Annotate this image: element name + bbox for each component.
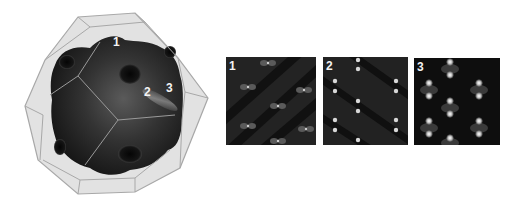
region-label-1: 1: [113, 36, 120, 48]
truncated-octahedron-isosurface: 1 2 3: [0, 0, 220, 202]
region-label-2: 2: [144, 86, 151, 98]
region-label-3: 3: [166, 82, 173, 94]
panel-3-pattern: [414, 58, 500, 145]
polyhedron-graphic: [0, 0, 220, 202]
figure: 1 2 3 1: [0, 0, 525, 202]
panel-label-2: 2: [326, 60, 333, 72]
panel-1-pattern: [226, 57, 316, 145]
panel-3: 3: [414, 58, 500, 145]
panel-1: 1: [226, 57, 316, 145]
panel-2: 2: [323, 57, 408, 145]
panel-label-3: 3: [417, 61, 424, 73]
panel-label-1: 1: [229, 60, 236, 72]
panel-2-pattern: [323, 57, 408, 145]
